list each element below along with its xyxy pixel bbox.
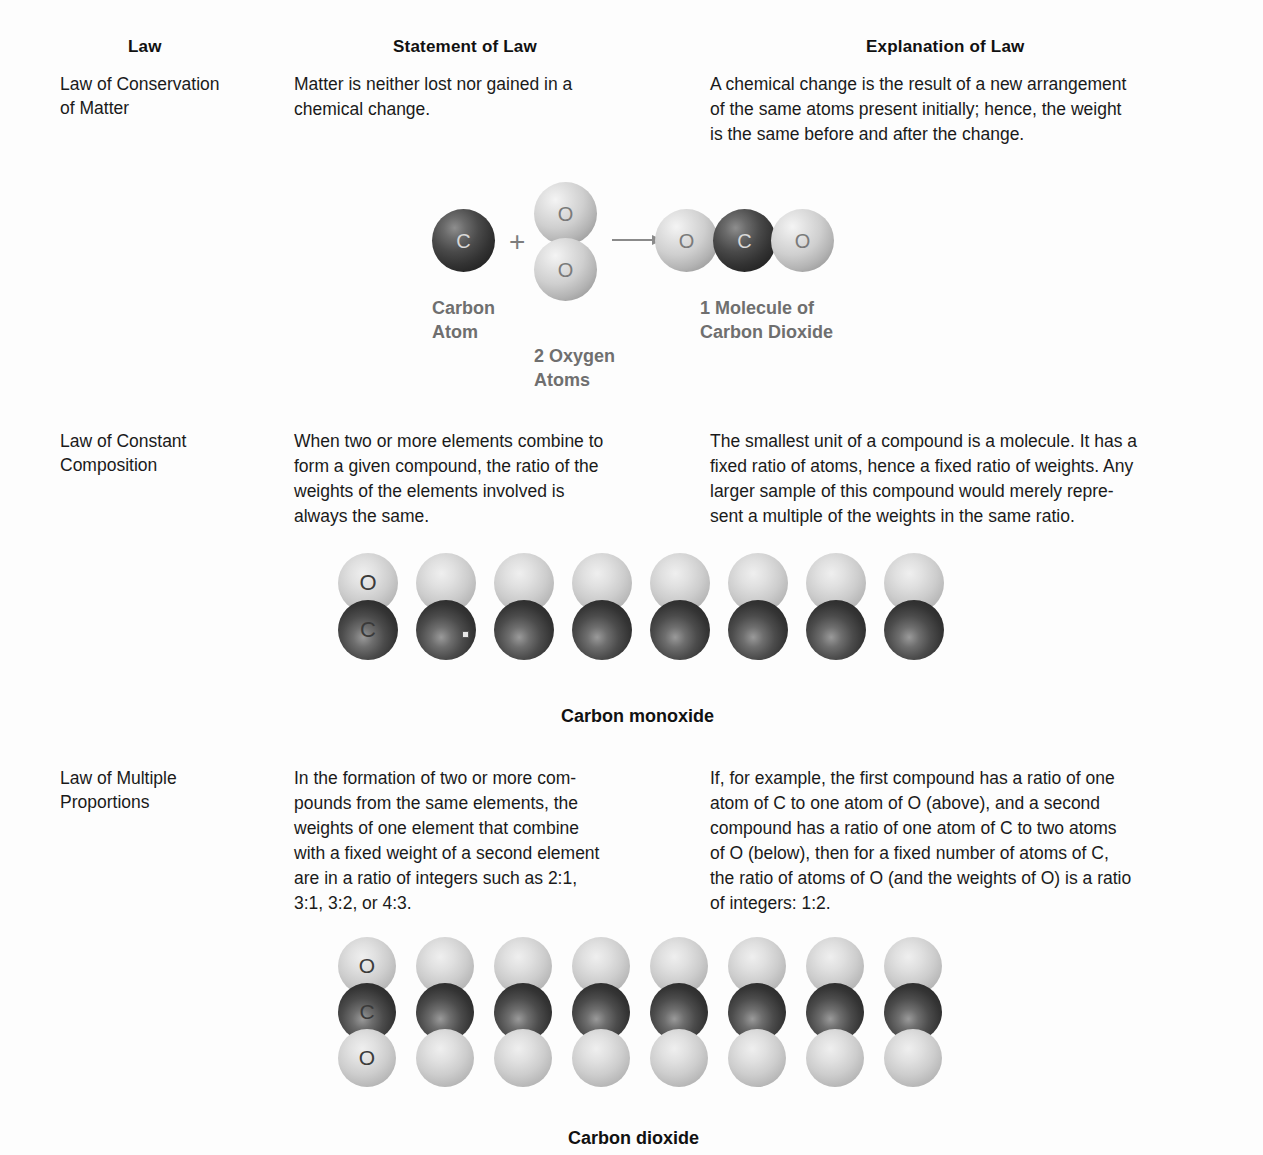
explanation-line: of integers: 1:2.	[710, 891, 1255, 916]
atom-symbol: O	[338, 954, 396, 978]
law-name-constant-composition: Law of Constant Composition	[60, 429, 290, 477]
caption-carbon-dioxide: Carbon dioxide	[568, 1128, 699, 1149]
atom-carbon	[806, 600, 866, 660]
explanation-line: of O (below), then for a fixed number of…	[710, 841, 1255, 866]
atom-oxygen-bottom	[650, 1029, 708, 1087]
explanation-line: The smallest unit of a compound is a mol…	[710, 429, 1255, 454]
statement-line: In the formation of two or more com-	[294, 766, 694, 791]
column-header-explanation: Explanation of Law	[866, 37, 1025, 57]
law-name-line: Law of Conservation	[60, 72, 290, 96]
explanation-line: is the same before and after the change.	[710, 122, 1255, 147]
atom-oxygen-bottom	[728, 1029, 786, 1087]
explanation-line: fixed ratio of atoms, hence a fixed rati…	[710, 454, 1255, 479]
atom-oxygen-product-left: O	[655, 209, 718, 272]
atom-oxygen-reactant-bottom: O	[534, 238, 597, 301]
atom-oxygen-product-right: O	[771, 209, 834, 272]
law-name-line: of Matter	[60, 96, 290, 120]
statement-line: weights of one element that combine	[294, 816, 694, 841]
law-name-line: Composition	[60, 453, 290, 477]
atom-oxygen-bottom	[416, 1029, 474, 1087]
law-name-line: Law of Multiple	[60, 766, 290, 790]
atom-carbon	[572, 600, 632, 660]
atom-oxygen-bottom	[572, 1029, 630, 1087]
atom-carbon	[416, 600, 476, 660]
explanation-line: compound has a ratio of one atom of C to…	[710, 816, 1255, 841]
atom-carbon	[728, 600, 788, 660]
atom-carbon-reactant: C	[432, 209, 495, 272]
label-line: 2 Oxygen	[534, 344, 615, 368]
atom-carbon	[884, 600, 944, 660]
label-line: Atoms	[534, 368, 615, 392]
atom-symbol: C	[338, 617, 398, 643]
column-header-statement: Statement of Law	[393, 37, 537, 57]
explanation-line: of the same atoms present initially; hen…	[710, 97, 1255, 122]
label-carbon-atom: Carbon Atom	[432, 296, 495, 344]
label-line: Carbon Dioxide	[700, 320, 833, 344]
atom-carbon	[494, 600, 554, 660]
label-line: Atom	[432, 320, 495, 344]
statement-constant-composition: When two or more elements combine to for…	[294, 429, 694, 529]
atom-symbol: O	[655, 229, 718, 252]
print-speck	[462, 631, 469, 638]
explanation-constant-composition: The smallest unit of a compound is a mol…	[710, 429, 1255, 529]
atom-carbon-product: C	[713, 209, 776, 272]
figure-page: Law Statement of Law Explanation of Law …	[0, 0, 1263, 1155]
explanation-line: sent a multiple of the weights in the sa…	[710, 504, 1255, 529]
label-line: 1 Molecule of	[700, 296, 833, 320]
explanation-line: A chemical change is the result of a new…	[710, 72, 1255, 97]
law-name-conservation: Law of Conservation of Matter	[60, 72, 290, 120]
statement-conservation: Matter is neither lost nor gained in a c…	[294, 72, 694, 122]
statement-multiple-proportions: In the formation of two or more com- pou…	[294, 766, 694, 916]
label-line: Carbon	[432, 296, 495, 320]
statement-line: weights of the elements involved is	[294, 479, 694, 504]
atom-symbol: O	[771, 229, 834, 252]
label-oxygen-atoms: 2 Oxygen Atoms	[534, 344, 615, 392]
statement-line: always the same.	[294, 504, 694, 529]
atom-symbol: C	[338, 1000, 396, 1024]
law-name-line: Proportions	[60, 790, 290, 814]
statement-line: Matter is neither lost nor gained in a	[294, 72, 694, 97]
caption-carbon-monoxide: Carbon monoxide	[561, 706, 714, 727]
explanation-line: If, for example, the first compound has …	[710, 766, 1255, 791]
atom-symbol: O	[534, 202, 597, 225]
explanation-line: the ratio of atoms of O (and the weights…	[710, 866, 1255, 891]
statement-line: are in a ratio of integers such as 2:1,	[294, 866, 694, 891]
law-name-line: Law of Constant	[60, 429, 290, 453]
atom-symbol: O	[338, 1046, 396, 1070]
atom-oxygen-bottom	[806, 1029, 864, 1087]
atom-oxygen-bottom	[494, 1029, 552, 1087]
statement-line: pounds from the same elements, the	[294, 791, 694, 816]
atom-oxygen-bottom: O	[338, 1029, 396, 1087]
law-name-multiple-proportions: Law of Multiple Proportions	[60, 766, 290, 814]
label-product-molecule: 1 Molecule of Carbon Dioxide	[700, 296, 833, 344]
atom-symbol: O	[534, 258, 597, 281]
explanation-line: larger sample of this compound would mer…	[710, 479, 1255, 504]
atom-oxygen-bottom	[884, 1029, 942, 1087]
atom-oxygen-reactant-top: O	[534, 182, 597, 245]
column-header-law: Law	[128, 37, 162, 57]
atom-symbol: C	[432, 229, 495, 252]
statement-line: form a given compound, the ratio of the	[294, 454, 694, 479]
explanation-multiple-proportions: If, for example, the first compound has …	[710, 766, 1255, 916]
statement-line: When two or more elements combine to	[294, 429, 694, 454]
atom-carbon: C	[338, 600, 398, 660]
atom-symbol: O	[338, 570, 398, 596]
statement-line: 3:1, 3:2, or 4:3.	[294, 891, 694, 916]
explanation-conservation: A chemical change is the result of a new…	[710, 72, 1255, 147]
atom-symbol: C	[713, 229, 776, 252]
plus-sign: +	[509, 228, 525, 256]
statement-line: chemical change.	[294, 97, 694, 122]
atom-carbon	[650, 600, 710, 660]
explanation-line: atom of C to one atom of O (above), and …	[710, 791, 1255, 816]
statement-line: with a fixed weight of a second element	[294, 841, 694, 866]
